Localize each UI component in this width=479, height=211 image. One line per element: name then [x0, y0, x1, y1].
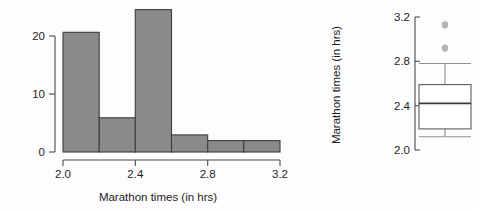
boxplot-ytick-label: 3.2 — [394, 11, 410, 23]
histogram-xtick-label: 3.2 — [272, 168, 288, 180]
histogram-bar — [244, 141, 280, 152]
boxplot-outlier-point — [442, 45, 448, 52]
histogram-ytick-label: 20 — [32, 30, 45, 42]
histogram-bar — [99, 118, 135, 152]
histogram-ytick-label: 0 — [39, 146, 45, 158]
histogram-ytick-label: 10 — [32, 88, 45, 100]
figure-canvas: 20 10 0 2.0 2.4 2.8 3.2 Marathon times (… — [0, 0, 479, 211]
boxplot-ytick-label: 2.4 — [394, 100, 411, 112]
boxplot-svg: 3.2 2.8 2.4 2.0 Marathon times (in hrs) — [320, 0, 479, 211]
histogram-bar — [172, 135, 208, 152]
boxplot-box-group — [419, 21, 471, 137]
histogram-y-axis: 20 10 0 — [32, 30, 55, 158]
histogram-panel: 20 10 0 2.0 2.4 2.8 3.2 Marathon times (… — [0, 0, 320, 211]
boxplot-y-axis: 3.2 2.8 2.4 2.0 — [394, 11, 420, 156]
histogram-bars — [63, 10, 280, 152]
boxplot-panel: 3.2 2.8 2.4 2.0 Marathon times (in hrs) — [320, 0, 479, 211]
boxplot-ylabel: Marathon times (in hrs) — [330, 26, 342, 144]
boxplot-box — [419, 85, 471, 129]
boxplot-ytick-label: 2.8 — [394, 55, 410, 67]
histogram-bar — [63, 32, 99, 152]
histogram-x-axis: 2.0 2.4 2.8 3.2 — [55, 160, 288, 180]
histogram-xtick-label: 2.4 — [127, 168, 144, 180]
histogram-xtick-label: 2.0 — [55, 168, 71, 180]
histogram-bar — [208, 141, 244, 152]
histogram-svg: 20 10 0 2.0 2.4 2.8 3.2 Marathon times (… — [0, 0, 320, 211]
histogram-xtick-label: 2.8 — [200, 168, 216, 180]
boxplot-outlier-point — [442, 21, 448, 28]
histogram-bar — [135, 10, 171, 152]
histogram-xlabel: Marathon times (in hrs) — [99, 191, 217, 203]
boxplot-ytick-label: 2.0 — [394, 144, 410, 156]
